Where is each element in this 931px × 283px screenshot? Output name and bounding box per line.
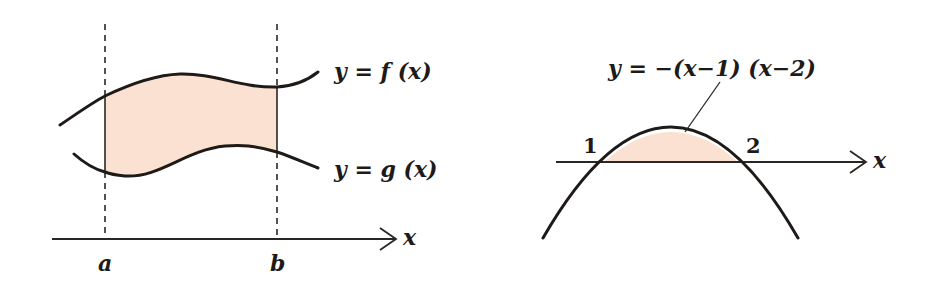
shaded-region-left: [105, 74, 277, 176]
label-b: b: [270, 250, 285, 276]
label-a: a: [98, 250, 112, 276]
label-g: y = g (x): [333, 156, 438, 182]
shaded-region-right: [604, 132, 738, 162]
left-figure: y = f (x) y = g (x) x a b: [52, 24, 438, 276]
label-root-2: 2: [746, 133, 761, 158]
label-x-left: x: [402, 224, 417, 250]
figure-canvas: y = f (x) y = g (x) x a b y = −(x−1) (x−…: [0, 0, 931, 283]
label-x-right: x: [872, 147, 887, 173]
leader-line: [685, 82, 720, 132]
label-f: y = f (x): [333, 58, 432, 84]
diagram-svg: y = f (x) y = g (x) x a b y = −(x−1) (x−…: [0, 0, 931, 283]
right-figure: y = −(x−1) (x−2) 1 2 x: [543, 55, 887, 238]
label-root-1: 1: [583, 133, 598, 158]
label-parabola: y = −(x−1) (x−2): [607, 55, 816, 81]
